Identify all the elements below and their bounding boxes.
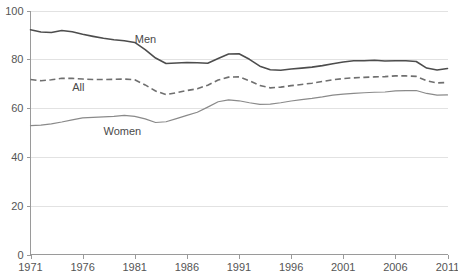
x-tick-label-1986: 1986	[175, 261, 199, 273]
y-tick-label-20: 20	[11, 200, 23, 212]
series-line-men	[31, 30, 448, 71]
y-tick-label-100: 100	[5, 5, 23, 17]
x-tick-label-1981: 1981	[123, 261, 147, 273]
x-tick-labels: 197119761981198619911996200120062011	[18, 261, 458, 273]
series-label-men: Men	[135, 33, 156, 45]
line-chart: 020406080100 197119761981198619911996200…	[0, 0, 458, 280]
y-axis	[27, 11, 31, 256]
x-axis	[31, 255, 449, 259]
x-tick-label-2006: 2006	[383, 261, 407, 273]
y-tick-labels: 020406080100	[5, 5, 23, 261]
data-series	[31, 30, 448, 126]
y-tick-label-0: 0	[17, 249, 23, 261]
x-tick-label-2011: 2011	[436, 261, 458, 273]
series-label-women: Women	[103, 125, 141, 137]
series-label-all: All	[72, 81, 84, 93]
x-tick-label-1996: 1996	[279, 261, 303, 273]
gridlines	[31, 12, 448, 207]
chart-canvas: 020406080100 197119761981198619911996200…	[0, 0, 458, 280]
y-tick-label-40: 40	[11, 151, 23, 163]
x-tick-label-1991: 1991	[227, 261, 251, 273]
x-tick-label-1976: 1976	[70, 261, 94, 273]
caption-clipped	[0, 274, 458, 280]
y-tick-label-60: 60	[11, 102, 23, 114]
y-tick-label-80: 80	[11, 53, 23, 65]
x-tick-label-2001: 2001	[331, 261, 355, 273]
x-tick-label-1971: 1971	[18, 261, 42, 273]
